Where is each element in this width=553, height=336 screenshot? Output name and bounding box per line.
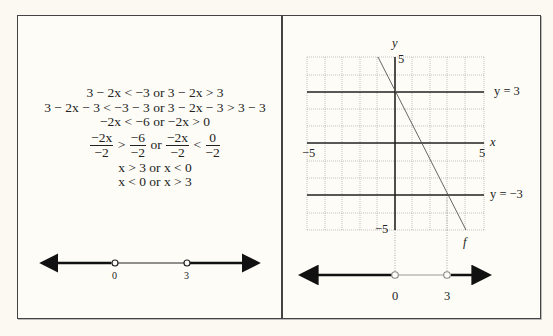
x-max-label: 5	[479, 146, 485, 161]
y-min-label: −5	[375, 222, 388, 237]
open-point-3	[444, 272, 451, 279]
tick-label-3: 3	[444, 289, 450, 304]
label-y-equals-neg3: y = −3	[490, 187, 523, 202]
tick-label-3: 3	[184, 270, 189, 281]
number-line-left	[44, 260, 256, 266]
open-point-0	[112, 260, 118, 266]
y-max-label: 5	[398, 52, 404, 67]
label-y-equals-3: y = 3	[494, 84, 520, 99]
drop-lines	[395, 195, 447, 275]
number-line-right	[303, 272, 487, 279]
y-axis-label: y	[392, 36, 398, 51]
x-min-label: −5	[302, 146, 315, 161]
open-point-0	[392, 272, 399, 279]
open-point-3	[184, 260, 190, 266]
x-axis-label: x	[490, 135, 496, 150]
tick-label-0: 0	[392, 289, 398, 304]
figure-graphics	[0, 0, 553, 336]
tick-label-0: 0	[112, 270, 117, 281]
function-label: f	[463, 235, 466, 250]
